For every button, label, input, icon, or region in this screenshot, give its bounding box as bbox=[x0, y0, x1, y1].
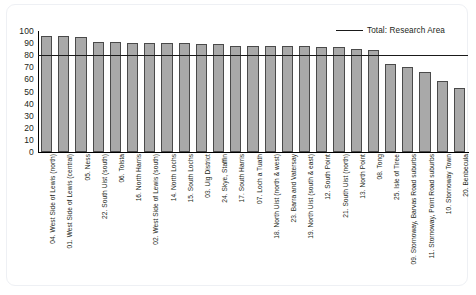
y-axis-tick-labels: 1009080706050403020100 bbox=[0, 31, 34, 152]
x-label: 17. South Harris bbox=[238, 154, 245, 202]
y-tick-100: 100 bbox=[19, 27, 34, 35]
bar bbox=[213, 44, 224, 152]
bar bbox=[93, 42, 104, 152]
bar bbox=[316, 47, 327, 152]
plot-area bbox=[38, 31, 468, 152]
bar bbox=[144, 43, 155, 152]
y-tick-50: 50 bbox=[24, 88, 34, 96]
x-label: 07. Loch a Tuath bbox=[256, 154, 263, 204]
x-label: 08. Tong bbox=[376, 154, 383, 180]
y-tick-70: 70 bbox=[24, 63, 34, 71]
x-label: 24. Skye, Staffin bbox=[221, 154, 228, 203]
x-label: 19. North Uist (south & east) bbox=[307, 154, 314, 239]
x-label: 04. West Side of Lewis (north) bbox=[49, 154, 56, 244]
chart-legend: Total: Research Area bbox=[336, 26, 445, 35]
x-label: 22. South Uist (south) bbox=[101, 154, 108, 219]
y-tick-60: 60 bbox=[24, 75, 34, 83]
bar bbox=[230, 46, 241, 152]
bar bbox=[41, 36, 52, 152]
bar bbox=[196, 44, 207, 152]
bar bbox=[368, 50, 379, 152]
x-label: 15. South Lochs bbox=[187, 154, 194, 202]
bar bbox=[127, 43, 138, 152]
x-label: 02. West Side of Lewis (south) bbox=[152, 154, 159, 245]
bar bbox=[161, 43, 172, 152]
bar bbox=[437, 81, 448, 152]
bar bbox=[265, 46, 276, 152]
legend-line-swatch bbox=[336, 30, 363, 31]
bar bbox=[419, 72, 430, 152]
bar bbox=[247, 46, 258, 152]
y-tick-10: 10 bbox=[24, 136, 34, 144]
bar bbox=[385, 64, 396, 152]
x-label: 10. Stornoway Town bbox=[445, 154, 452, 214]
bar bbox=[299, 46, 310, 152]
bar bbox=[402, 67, 413, 152]
y-tick-90: 90 bbox=[24, 39, 34, 47]
bar bbox=[110, 42, 121, 152]
x-label: 09. Stornoway, Barvas Road suburbs bbox=[410, 154, 417, 264]
bar bbox=[351, 49, 362, 152]
x-label: 06. Tolsta bbox=[118, 154, 125, 183]
x-label: 25. Isle of Tiree bbox=[393, 154, 400, 200]
figure-container: 1009080706050403020100 Total: Research A… bbox=[0, 0, 476, 295]
x-label: 20. Benbecula bbox=[462, 154, 469, 197]
x-label: 14. North Lochs bbox=[170, 154, 177, 201]
x-label: 23. Barra and Vatersay bbox=[290, 154, 297, 222]
bar bbox=[333, 47, 344, 152]
x-label: 11. Stornoway, Point Road suburbs bbox=[428, 154, 435, 258]
reference-line-total-research-area bbox=[38, 55, 468, 56]
y-tick-80: 80 bbox=[24, 51, 34, 59]
x-axis-category-labels: 04. West Side of Lewis (north)01. West S… bbox=[38, 154, 468, 274]
y-tick-0: 0 bbox=[29, 148, 34, 156]
bar bbox=[282, 46, 293, 152]
bar bbox=[58, 36, 69, 152]
x-label: 13. North Point bbox=[359, 154, 366, 199]
legend-label-total-research-area: Total: Research Area bbox=[367, 26, 445, 35]
x-label: 03. Uig District bbox=[204, 154, 211, 198]
y-tick-20: 20 bbox=[24, 124, 34, 132]
x-axis-line bbox=[38, 152, 469, 153]
x-label: 18. North Uist (north & west) bbox=[273, 154, 280, 239]
bar-series bbox=[38, 31, 468, 152]
y-tick-40: 40 bbox=[24, 100, 34, 108]
bar bbox=[454, 88, 465, 152]
x-label: 05. Ness bbox=[84, 154, 91, 180]
bar bbox=[179, 43, 190, 152]
x-label: 16. North Harris bbox=[135, 154, 142, 201]
y-tick-30: 30 bbox=[24, 112, 34, 120]
x-label: 21. South Uist (north) bbox=[342, 154, 349, 218]
x-label: 12. South Point bbox=[324, 154, 331, 200]
x-label: 01. West Side of Lewis (central) bbox=[66, 154, 73, 249]
